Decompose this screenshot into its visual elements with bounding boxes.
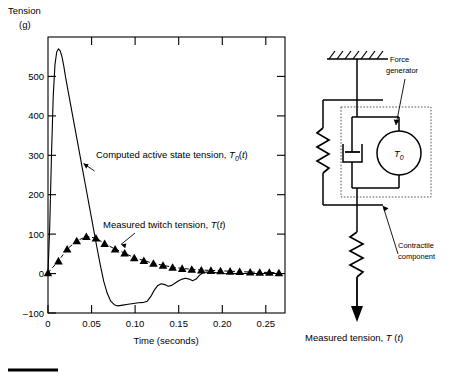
x-tick-label: 0.25: [257, 318, 276, 329]
figure-svg: Tension (g) –100 0 100 200 300 400 500: [0, 0, 461, 376]
x-axis-ticks: [48, 305, 266, 313]
leader-line: [121, 233, 135, 245]
x-tick-label: 0.05: [82, 318, 101, 329]
y-tick-label: 100: [28, 229, 44, 240]
force-generator-leader-line: [396, 79, 405, 125]
data-point-marker: [100, 240, 109, 248]
x-axis-title: Time (seconds): [133, 335, 198, 346]
x-tick-label: 0: [45, 318, 50, 329]
data-point-marker: [130, 254, 139, 262]
figure-root: Tension (g) –100 0 100 200 300 400 500: [0, 0, 461, 376]
contractile-label-line1: Contractile: [398, 241, 434, 250]
data-point-marker: [255, 268, 264, 276]
measured-tension-label: Measured tension, T (t): [305, 332, 403, 343]
y-tick-label: 300: [28, 150, 44, 161]
y-tick-label: –100: [23, 308, 44, 319]
x-tick-label: 0.10: [126, 318, 145, 329]
generator-symbol: T0: [394, 148, 404, 161]
annotation-label: Measured twitch tension, T(t): [103, 219, 226, 230]
measured-tension-arrow-icon: [351, 306, 363, 322]
y-tick-label: 400: [28, 110, 44, 121]
data-point-marker: [72, 237, 81, 245]
data-point-marker: [235, 268, 244, 276]
data-point-marker: [168, 263, 177, 271]
ground-symbol-icon: [327, 51, 388, 59]
y-tick-label: 500: [28, 71, 44, 82]
arrowhead-icon: [383, 206, 389, 212]
y-axis-title-line2: (g): [19, 19, 31, 30]
y-axis-tick-labels: –100 0 100 200 300 400 500: [23, 71, 44, 319]
x-axis-tick-labels: 0 0.05 0.10 0.15 0.20 0.25: [45, 318, 275, 329]
series-elastic-spring-icon: [350, 232, 363, 277]
data-point-marker: [120, 249, 129, 257]
annotation-computed-active-state-tension: Computed active state tension, T0(t): [84, 149, 248, 171]
data-point-marker: [82, 232, 91, 240]
data-point-marker: [149, 259, 158, 267]
mechanical-model-diagram: T0 Force generator Contractile component…: [305, 51, 436, 343]
y-tick-label: 200: [28, 189, 44, 200]
data-point-marker: [111, 245, 120, 253]
x-tick-label: 0.15: [169, 318, 188, 329]
data-point-marker: [54, 257, 63, 265]
contractile-leader-line: [383, 206, 398, 254]
data-point-marker: [140, 256, 149, 264]
data-point-marker: [44, 269, 53, 277]
annotation-measured-twitch-tension: Measured twitch tension, T(t): [103, 219, 226, 248]
chart-panel: Tension (g) –100 0 100 200 300 400 500: [8, 5, 285, 346]
force-generator-label-line2: generator: [386, 66, 419, 75]
series-measured-twitch-tension: [44, 232, 284, 276]
annotation-label: Computed active state tension, T0(t): [96, 149, 248, 162]
marker-group: [44, 232, 284, 276]
y-axis-title-line1: Tension: [8, 5, 41, 16]
parallel-elastic-spring-icon: [317, 128, 329, 173]
y-tick-label: 0: [39, 268, 44, 279]
data-point-marker: [275, 269, 284, 277]
x-axis-ticks-top: [92, 37, 266, 45]
y-axis-ticks: [48, 76, 56, 313]
force-generator-label-line1: Force: [390, 55, 409, 64]
y-axis-ticks-right: [277, 76, 285, 273]
contractile-label-line2: component: [398, 252, 436, 261]
x-tick-label: 0.20: [213, 318, 232, 329]
data-point-marker: [216, 267, 225, 275]
dashpot-icon: [343, 142, 362, 162]
